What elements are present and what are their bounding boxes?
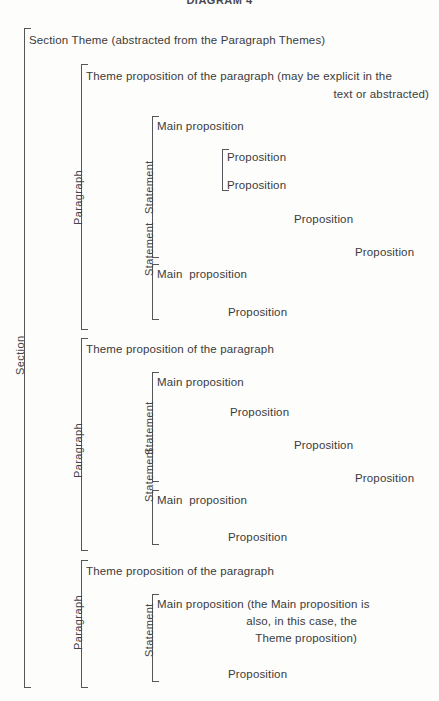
main-proposition-3-1-line2: also, in this case, the	[157, 614, 357, 628]
proposition-3-1-a: Proposition	[228, 667, 287, 681]
main-proposition-3-1: Main proposition (the Main proposition i…	[157, 597, 370, 611]
statement-label-1-1: Statement	[143, 160, 155, 214]
paragraph-label-3: Paragraph	[72, 595, 84, 650]
main-proposition-2-1: Main proposition	[157, 375, 244, 389]
proposition-2-1-c: Proposition	[355, 471, 414, 485]
main-proposition-1-1: Main proposition	[157, 119, 244, 133]
paragraph-theme-1-line1: Theme proposition of the paragraph (may …	[86, 69, 392, 83]
paragraph-label-1: Paragraph	[72, 170, 84, 225]
proposition-2-1-b: Proposition	[294, 438, 353, 452]
proposition-1-2-a: Proposition	[228, 305, 287, 319]
section-label: Section	[14, 336, 26, 376]
section-theme-text: Section Theme (abstracted from the Parag…	[29, 33, 325, 47]
statement-label-1-2: Statement	[143, 222, 155, 276]
proposition-2-1-a: Proposition	[230, 405, 289, 419]
diagram-title: DIAGRAM 4	[0, 0, 439, 6]
proposition-1-1-a: Proposition	[227, 150, 286, 164]
main-proposition-2-2: Main proposition	[157, 493, 247, 507]
proposition-1-1-b: Proposition	[227, 178, 286, 192]
paragraph-theme-1-line2: text or abstracted)	[86, 87, 429, 101]
paragraph-theme-2-line1: Theme proposition of the paragraph	[86, 342, 274, 356]
diagram-canvas: DIAGRAM 4 Section Section Theme (abstrac…	[0, 0, 439, 701]
statement-label-2-1: Statement	[143, 401, 155, 455]
paragraph-theme-3-line1: Theme proposition of the paragraph	[86, 564, 274, 578]
proposition-1-1-d: Proposition	[355, 245, 414, 259]
main-proposition-3-1-line3: Theme proposition)	[157, 631, 357, 645]
proposition-1-1-c: Proposition	[294, 212, 353, 226]
paragraph-label-2: Paragraph	[72, 423, 84, 478]
proposition-2-2-a: Proposition	[228, 530, 287, 544]
statement-label-3-1: Statement	[143, 603, 155, 657]
main-proposition-1-2: Main proposition	[157, 267, 247, 281]
statement-label-2-2: Statement	[143, 448, 155, 502]
